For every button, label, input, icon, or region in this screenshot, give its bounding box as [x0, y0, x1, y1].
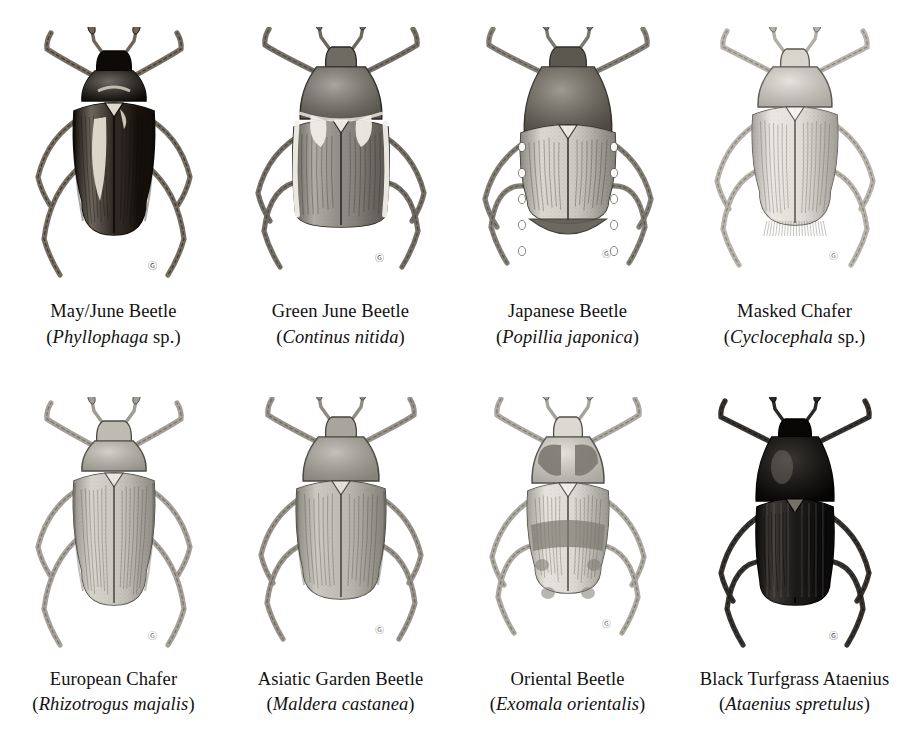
- paren-close: ): [399, 327, 405, 347]
- beetle-cell: ⒼMay/June Beetle(Phyllophaga sp.): [0, 8, 227, 380]
- beetle-species-abbrev: sp.: [148, 327, 174, 347]
- beetle-latin-binomial: Rhizotrogus majalis: [39, 694, 189, 714]
- beetle-cell: ⒼJapanese Beetle(Popillia japonica): [454, 8, 681, 380]
- beetle-icon: Ⓖ: [478, 397, 658, 655]
- beetle-caption: Green June Beetle(Continus nitida): [272, 300, 409, 349]
- beetle-common-name: Green June Beetle: [272, 300, 409, 324]
- svg-text:Ⓖ: Ⓖ: [148, 631, 157, 641]
- beetle-common-name: Asiatic Garden Beetle: [258, 668, 423, 692]
- beetle-illustration: Ⓖ: [0, 26, 227, 286]
- beetle-latin-binomial: Ataenius spretulus: [725, 694, 863, 714]
- beetle-cell: ⒼAsiatic Garden Beetle(Maldera castanea): [227, 380, 454, 751]
- paren-close: ): [859, 327, 865, 347]
- beetle-icon: Ⓖ: [251, 397, 431, 655]
- beetle-illustration: Ⓖ: [227, 26, 454, 286]
- beetle-common-name: Black Turfgrass Ataenius: [700, 668, 889, 692]
- beetle-cell: ⒼOriental Beetle(Exomala orientalis): [454, 380, 681, 751]
- svg-text:Ⓖ: Ⓖ: [602, 249, 611, 259]
- beetle-cell: ⒼEuropean Chafer(Rhizotrogus majalis): [0, 380, 227, 751]
- beetle-scientific-name: (Rhizotrogus majalis): [32, 693, 194, 717]
- beetle-illustration: Ⓖ: [681, 26, 908, 286]
- beetle-icon: Ⓖ: [24, 397, 204, 655]
- beetle-illustration: Ⓖ: [454, 396, 681, 656]
- beetle-latin-binomial: Exomala orientalis: [496, 694, 639, 714]
- beetle-common-name: European Chafer: [32, 668, 194, 692]
- beetle-scientific-name: (Maldera castanea): [258, 693, 423, 717]
- beetle-scientific-name: (Continus nitida): [272, 326, 409, 350]
- svg-text:Ⓖ: Ⓖ: [829, 251, 838, 261]
- beetle-caption: Japanese Beetle(Popillia japonica): [496, 300, 639, 349]
- paren-close: ): [633, 327, 639, 347]
- beetle-caption: European Chafer(Rhizotrogus majalis): [32, 668, 194, 717]
- svg-text:Ⓖ: Ⓖ: [829, 631, 838, 641]
- beetle-icon: Ⓖ: [251, 27, 431, 285]
- svg-text:Ⓖ: Ⓖ: [602, 619, 611, 629]
- beetle-latin-binomial: Popillia japonica: [502, 327, 633, 347]
- beetle-caption: Masked Chafer(Cyclocephala sp.): [724, 300, 866, 349]
- beetle-icon: Ⓖ: [705, 27, 885, 285]
- beetle-cell: ⒼBlack Turfgrass Ataenius(Ataenius spret…: [681, 380, 908, 751]
- beetle-cell: ⒼGreen June Beetle(Continus nitida): [227, 8, 454, 380]
- svg-text:Ⓖ: Ⓖ: [375, 253, 384, 263]
- beetle-scientific-name: (Cyclocephala sp.): [724, 326, 866, 350]
- beetle-caption: Asiatic Garden Beetle(Maldera castanea): [258, 668, 423, 717]
- beetle-illustration: Ⓖ: [0, 396, 227, 656]
- beetle-identification-plate: ⒼMay/June Beetle(Phyllophaga sp.)ⒼGreen …: [0, 0, 908, 751]
- beetle-icon: Ⓖ: [478, 27, 658, 285]
- paren-close: ): [864, 694, 870, 714]
- beetle-species-abbrev: sp.: [833, 327, 859, 347]
- beetle-caption: Oriental Beetle(Exomala orientalis): [490, 668, 646, 717]
- beetle-scientific-name: (Phyllophaga sp.): [46, 326, 180, 350]
- beetle-icon: Ⓖ: [24, 27, 204, 285]
- paren-close: ): [188, 694, 194, 714]
- beetle-latin-binomial: Continus nitida: [282, 327, 398, 347]
- paren-close: ): [639, 694, 645, 714]
- beetle-caption: Black Turfgrass Ataenius(Ataenius spretu…: [700, 668, 889, 717]
- beetle-illustration: Ⓖ: [227, 396, 454, 656]
- beetle-icon: Ⓖ: [705, 397, 885, 655]
- beetle-common-name: Masked Chafer: [724, 300, 866, 324]
- beetle-latin-binomial: Cyclocephala: [730, 327, 833, 347]
- paren-close: ): [174, 327, 180, 347]
- beetle-common-name: May/June Beetle: [46, 300, 180, 324]
- beetle-scientific-name: (Popillia japonica): [496, 326, 639, 350]
- beetle-scientific-name: (Ataenius spretulus): [700, 693, 889, 717]
- svg-text:Ⓖ: Ⓖ: [375, 625, 384, 635]
- beetle-common-name: Oriental Beetle: [490, 668, 646, 692]
- beetle-latin-binomial: Phyllophaga: [53, 327, 149, 347]
- beetle-common-name: Japanese Beetle: [496, 300, 639, 324]
- paren-close: ): [408, 694, 414, 714]
- beetle-illustration: Ⓖ: [681, 396, 908, 656]
- beetle-scientific-name: (Exomala orientalis): [490, 693, 646, 717]
- svg-text:Ⓖ: Ⓖ: [148, 261, 157, 271]
- beetle-cell: ⒼMasked Chafer(Cyclocephala sp.): [681, 8, 908, 380]
- beetle-caption: May/June Beetle(Phyllophaga sp.): [46, 300, 180, 349]
- beetle-latin-binomial: Maldera castanea: [273, 694, 409, 714]
- beetle-illustration: Ⓖ: [454, 26, 681, 286]
